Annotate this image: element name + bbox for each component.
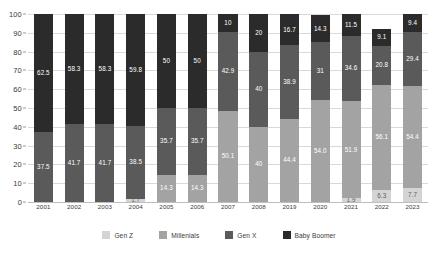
bar-segment-value: 40 [255,86,262,92]
legend-label: Gen Z [114,232,133,239]
y-axis-tick-label: 70 [13,66,22,75]
bar-segment[interactable]: 62.5 [34,14,53,132]
bar-stack[interactable]: 9.429.454.47.7 [403,14,422,202]
bar-stack[interactable]: 5035.714.3 [188,14,207,202]
x-axis-tick-label: 2001 [28,203,59,217]
bar-segment-value: 38.9 [283,79,296,85]
bar-segment[interactable]: 59.8 [126,14,145,126]
bar-group: 16.738.944.4 [274,14,305,202]
bar-segment-value: 59.8 [129,67,142,73]
bar-segment[interactable]: 34.6 [342,36,361,101]
bar-group: 58.341.7 [59,14,90,202]
bar-segment[interactable]: 56.1 [372,85,391,190]
bar-group: 9.120.856.16.3 [366,14,397,202]
bar-segment[interactable]: 41.7 [65,124,84,202]
bar-stack[interactable]: 62.537.5 [34,14,53,202]
bar-segment[interactable]: 40 [249,52,268,127]
legend-swatch-icon [225,231,233,239]
bar-segment[interactable]: 40 [249,127,268,202]
bar-segment[interactable]: 50.1 [218,111,237,202]
bar-group: 5035.714.3 [182,14,213,202]
bar-segment[interactable]: 9.1 [372,29,391,46]
bar-segment[interactable]: 11.5 [342,14,361,36]
legend-label: Baby Boomer [295,232,336,239]
bar-group: 14.33154.0 [305,14,336,202]
bar-segment[interactable]: 51.9 [342,101,361,199]
bar-stack[interactable]: 58.341.7 [95,14,114,202]
bar-group: 11.534.651.91.9 [336,14,367,202]
x-axis-tick-label: 2006 [182,203,213,217]
bar-segment-value: 41.7 [99,160,112,166]
bar-segment-value: 54.4 [406,134,419,140]
bar-stack[interactable]: 204040 [249,14,268,202]
bar-segment[interactable]: 6.3 [372,190,391,202]
bar-group: 58.341.7 [90,14,121,202]
bar-segment-value: 44.4 [283,157,296,163]
bar-segment[interactable]: 14.3 [311,15,330,42]
x-axis-tick-label: 2023 [397,203,428,217]
bar-segment[interactable]: 31 [311,42,330,100]
bar-segment-value: 50 [163,58,170,64]
stacked-bar-chart: 0102030405060708090100 62.537.558.341.75… [0,0,438,257]
legend-item[interactable]: Millenials [159,231,199,239]
legend-label: Gen X [237,232,256,239]
bar-segment[interactable]: 29.4 [403,32,422,87]
bar-stack[interactable]: 1042.950.1 [218,14,237,202]
bar-stack[interactable]: 5035.714.3 [157,14,176,202]
bar-segment[interactable]: 38.5 [126,126,145,198]
bar-segment-value: 14.3 [160,185,173,191]
bar-segment[interactable]: 50 [188,14,207,108]
bar-segment-value: 37.5 [37,164,50,170]
x-axis-tick-label: 2003 [90,203,121,217]
bar-segment[interactable]: 58.3 [65,14,84,124]
bar-segment-value: 29.4 [406,56,419,62]
bar-segment-value: 56.1 [375,134,388,140]
bar-segment[interactable]: 44.4 [280,119,299,202]
bar-segment[interactable]: 10 [218,14,237,32]
bar-segment-value: 41.7 [68,160,81,166]
bar-segment[interactable]: 35.7 [188,108,207,175]
bar-segment[interactable]: 38.9 [280,45,299,118]
bar-segment-value: 54.0 [314,148,327,154]
bar-segment[interactable]: 54.0 [311,100,330,202]
bar-stack[interactable]: 59.838.51.7 [126,14,145,202]
y-axis-tick-mark [23,89,26,90]
bar-segment-value: 9.4 [408,20,417,26]
bar-segment[interactable]: 50 [157,14,176,108]
bar-segment[interactable]: 7.7 [403,188,422,202]
bar-stack[interactable]: 16.738.944.4 [280,14,299,202]
y-axis-tick-label: 60 [13,85,22,94]
legend-item[interactable]: Baby Boomer [283,231,336,239]
bar-stack[interactable]: 11.534.651.91.9 [342,14,361,202]
bar-segment-value: 50.1 [222,153,235,159]
bar-group: 59.838.51.7 [120,14,151,202]
bar-segment[interactable]: 58.3 [95,14,114,124]
bar-segment[interactable]: 1.9 [342,198,361,202]
legend-item[interactable]: Gen X [225,231,256,239]
y-axis-tick-mark [23,145,26,146]
bar-stack[interactable]: 9.120.856.16.3 [372,14,391,202]
bar-segment-value: 40 [255,161,262,167]
bar-segment[interactable]: 1.7 [126,199,145,202]
bar-segment[interactable]: 42.9 [218,32,237,110]
bar-group: 1042.950.1 [213,14,244,202]
bar-segment[interactable]: 14.3 [157,175,176,202]
legend-item[interactable]: Gen Z [102,231,133,239]
bar-stack[interactable]: 14.33154.0 [311,14,330,202]
y-axis-tick-label: 80 [13,47,22,56]
bar-segment[interactable]: 41.7 [95,124,114,202]
bar-segment[interactable]: 37.5 [34,132,53,203]
bar-segment[interactable]: 9.4 [403,14,422,32]
bar-segment-value: 20 [255,30,262,36]
bar-segment[interactable]: 14.3 [188,175,207,202]
bar-segment-value: 38.5 [129,159,142,165]
bar-segment[interactable]: 35.7 [157,108,176,175]
bar-segment[interactable]: 20.8 [372,46,391,85]
bar-segment[interactable]: 16.7 [280,14,299,45]
bar-segment-value: 35.7 [191,138,204,144]
x-axis-tick-label: 2007 [213,203,244,217]
bar-stack[interactable]: 58.341.7 [65,14,84,202]
bar-segment[interactable]: 54.4 [403,86,422,187]
bar-segment-value: 34.6 [345,65,358,71]
bar-segment[interactable]: 20 [249,14,268,52]
